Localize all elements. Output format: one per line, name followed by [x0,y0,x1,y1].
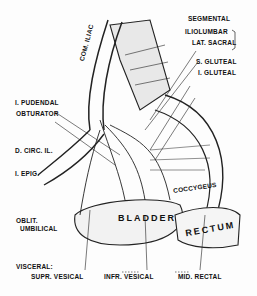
label-obturator: OBTURATOR [16,110,59,117]
label-oblit: OBLIT. [16,217,38,224]
label-mid-rectal: MID. RECTAL [178,273,222,280]
label-infr-vesical: INFR. VESICAL [104,273,154,280]
label-i-gluteal: I. GLUTEAL [198,69,236,76]
label-lat-sacral: LAT. SACRAL [192,39,236,46]
label-umbilical: UMBILICAL [20,225,58,232]
anatomical-figure: SEGMENTAL ILIOLUMBAR LAT. SACRAL S. GLUT… [0,0,257,296]
label-i-epig: I. EPIG. [15,170,39,177]
label-segmental: SEGMENTAL [188,15,230,22]
label-visceral: VISCERAL: [16,263,53,270]
label-i-pudendal: I. PUDENDAL [15,99,59,106]
label-iliolumbar: ILIOLUMBAR [185,28,228,35]
label-s-gluteal: S. GLUTEAL [196,58,237,65]
label-d-circ-il: D. CIRC. IL. [15,147,53,154]
label-bladder: BLADDER [118,213,176,223]
label-supr-vesical: SUPR. VESICAL [31,273,83,280]
